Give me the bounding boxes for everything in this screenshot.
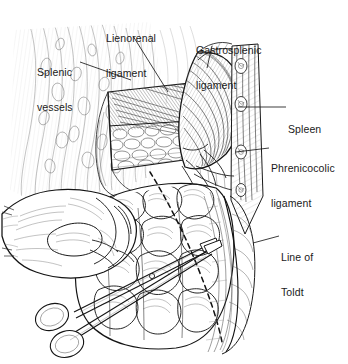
label-gastrosplenic-ligament-line1: Gastrosplenic xyxy=(196,45,262,57)
label-gastrosplenic-ligament-line2: ligament xyxy=(196,80,262,92)
label-lienorenal-ligament-line1: Lienorenal xyxy=(106,33,156,45)
label-phrenicocolic-ligament-line1: Phrenicocolic xyxy=(271,163,335,175)
label-splenic-vessels: Splenic vessels xyxy=(37,44,73,136)
label-splenic-vessels-line1: Splenic xyxy=(37,67,73,79)
label-phrenicocolic-ligament: Phrenicocolic ligament xyxy=(271,140,335,232)
label-phrenicocolic-ligament-line2: ligament xyxy=(271,198,335,210)
label-line-of-toldt: Line of Toldt xyxy=(281,229,313,321)
label-lienorenal-ligament-line2: ligament xyxy=(106,68,156,80)
label-line-of-toldt-line1: Line of xyxy=(281,252,313,264)
label-gastrosplenic-ligament: Gastrosplenic ligament xyxy=(196,22,262,114)
surgical-illustration-figure: Splenic vessels Lienorenal ligament Gast… xyxy=(0,0,348,364)
label-line-of-toldt-line2: Toldt xyxy=(281,287,313,299)
label-lienorenal-ligament: Lienorenal ligament xyxy=(106,10,156,102)
label-splenic-vessels-line2: vessels xyxy=(37,102,73,114)
label-spleen-line1: Spleen xyxy=(288,124,321,136)
